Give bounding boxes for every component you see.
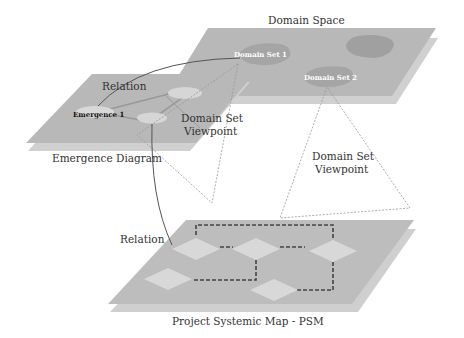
domain-space-label: Domain Space bbox=[268, 14, 345, 27]
diagram-graphics bbox=[0, 0, 464, 338]
emergence-diagram-label: Emergence Diagram bbox=[52, 152, 162, 165]
relation-top-label: Relation bbox=[102, 80, 146, 93]
viewpoint-left-line1: Domain Set bbox=[181, 112, 243, 125]
viewpoint-right-line1: Domain Set bbox=[312, 150, 374, 163]
psm-label: Project Systemic Map - PSM bbox=[172, 315, 324, 328]
emergence-node-bottom bbox=[137, 113, 167, 124]
relation-bottom-label: Relation bbox=[120, 233, 164, 246]
emergence-1-label: Emergence 1 bbox=[73, 108, 124, 121]
domain-set-1-label: Domain Set 1 bbox=[234, 48, 287, 61]
viewpoint-left-line2: Viewpoint bbox=[184, 125, 237, 138]
domain-set-2-label: Domain Set 2 bbox=[304, 71, 357, 84]
diagram-canvas: Domain Space Domain Set 1 Domain Set 2 R… bbox=[0, 0, 464, 338]
viewpoint-right-line2: Viewpoint bbox=[315, 163, 368, 176]
